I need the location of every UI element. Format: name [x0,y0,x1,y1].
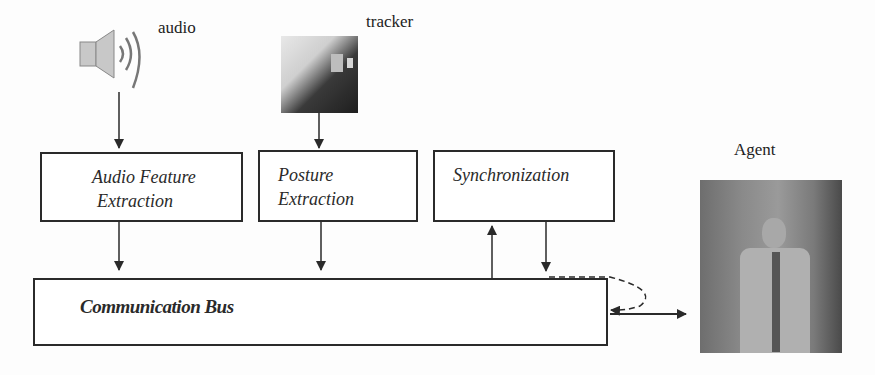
tracker-label: tracker [366,12,413,32]
posture-line2: Extraction [278,188,354,210]
agent-label: Agent [734,140,776,160]
agent-image [700,180,842,353]
audio-feature-line2: Extraction [97,190,173,212]
sync-label: Synchronization [453,164,569,186]
speaker-icon [80,30,140,88]
architecture-diagram: audio tracker Audio Feature Extraction P… [0,0,875,375]
tracker-image [281,36,358,113]
audio-label: audio [158,18,196,38]
posture-line1: Posture [278,164,333,186]
synchronization-box: Synchronization [433,150,615,222]
posture-extraction-box: Posture Extraction [258,150,418,222]
communication-bus-label: Communication Bus [80,296,234,318]
audio-feature-line1: Audio Feature [92,166,196,188]
communication-bus-box: Communication Bus [33,278,608,346]
audio-feature-extraction-box: Audio Feature Extraction [40,152,243,222]
